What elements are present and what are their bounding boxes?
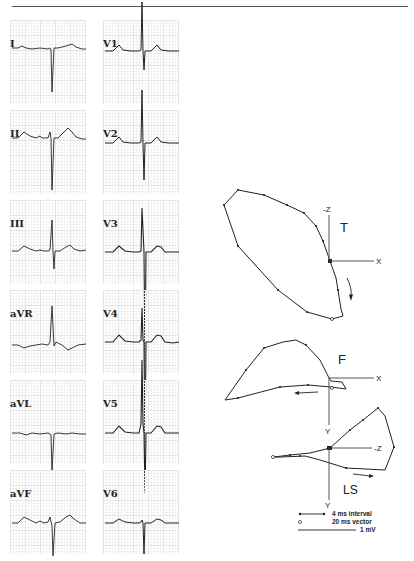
vector-marker-icon — [298, 518, 330, 526]
legend-interval-label: 4 ms interval — [332, 510, 372, 517]
axis-label-neg-z: -Z — [323, 205, 331, 214]
plane-label-f: F — [338, 352, 346, 367]
legend-vector-label: 20 ms vector — [332, 518, 372, 525]
interval-marker-icon — [298, 510, 330, 518]
legend-scale-label: 1 mV — [360, 526, 376, 533]
axis-label-y: Y — [325, 501, 331, 510]
axis-label-x: X — [376, 257, 382, 266]
plane-label-ls: LS — [343, 483, 358, 497]
axis-label-y: Y — [325, 427, 331, 436]
vectorcardiogram-figure: -Z X T X Y F -Z Y LS — [0, 0, 414, 561]
axis-label-neg-z: -Z — [374, 444, 382, 453]
plane-label-t: T — [340, 220, 348, 235]
vcg-frontal-plane: X Y F — [225, 340, 382, 436]
scale-bar-icon — [298, 526, 358, 534]
vcg-transverse-plane: -Z X T — [223, 189, 382, 321]
axis-label-x: X — [376, 374, 382, 383]
vcg-left-sagittal-plane: -Z Y LS — [271, 407, 395, 510]
